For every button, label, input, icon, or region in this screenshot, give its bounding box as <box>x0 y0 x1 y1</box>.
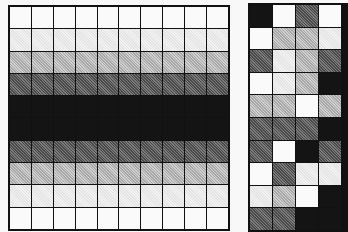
grid-cell <box>207 29 228 50</box>
grid-cell <box>185 74 206 95</box>
grid-cell <box>185 96 206 117</box>
grid-cell <box>54 141 75 162</box>
grid-cell <box>319 50 341 72</box>
grid-cell <box>250 95 272 117</box>
grid-cell <box>32 52 53 73</box>
grid-cell <box>250 5 272 27</box>
grid-cell <box>76 141 97 162</box>
grid-cell <box>207 74 228 95</box>
grid-cell <box>54 7 75 28</box>
grid-cell <box>250 28 272 50</box>
grid-cell <box>296 208 318 230</box>
grid-cell <box>296 186 318 208</box>
grid-cell <box>296 118 318 140</box>
grid-cell <box>207 7 228 28</box>
grid-cell <box>76 208 97 229</box>
grid-cell <box>76 74 97 95</box>
grid-cell <box>319 208 341 230</box>
grid-cell <box>319 73 341 95</box>
grid-cell <box>98 96 119 117</box>
grid-cell <box>207 185 228 206</box>
grid-cell <box>119 208 140 229</box>
grid-cell <box>98 52 119 73</box>
horizontal-gradient-band-grid <box>8 5 230 231</box>
grid-cell <box>273 186 295 208</box>
grid-cell <box>141 96 162 117</box>
grid-cell <box>76 163 97 184</box>
grid-cell <box>163 74 184 95</box>
grid-cell <box>141 7 162 28</box>
grid-cell <box>98 74 119 95</box>
grid-cell <box>119 7 140 28</box>
grid-cell <box>76 118 97 139</box>
grid-cell <box>250 73 272 95</box>
grid-cell <box>163 29 184 50</box>
grid-cell <box>163 118 184 139</box>
grid-cell <box>296 50 318 72</box>
grid-cell <box>141 208 162 229</box>
grid-cell <box>296 73 318 95</box>
grid-cell <box>319 163 341 185</box>
grid-cell <box>273 50 295 72</box>
grid-cell <box>119 118 140 139</box>
grid-cell <box>10 52 31 73</box>
grid-cell <box>185 141 206 162</box>
grid-cell <box>250 186 272 208</box>
grid-cell <box>32 118 53 139</box>
grid-cell <box>32 29 53 50</box>
grid-cell <box>185 52 206 73</box>
grid-cell <box>10 141 31 162</box>
grid-cell <box>98 29 119 50</box>
grid-cell <box>207 163 228 184</box>
grid-cell <box>141 118 162 139</box>
grid-cell <box>207 96 228 117</box>
grid-cell <box>119 96 140 117</box>
grid-cell <box>98 163 119 184</box>
grid-cell <box>163 7 184 28</box>
grid-cell <box>319 186 341 208</box>
grid-cell <box>10 118 31 139</box>
grid-cell <box>250 208 272 230</box>
grid-cell <box>32 96 53 117</box>
grid-cell <box>119 74 140 95</box>
grid-cell <box>32 141 53 162</box>
grid-cell <box>119 141 140 162</box>
grid-cell <box>10 163 31 184</box>
grid-cell <box>141 74 162 95</box>
grid-cell <box>296 141 318 163</box>
grid-cell <box>296 5 318 27</box>
grid-cell <box>273 5 295 27</box>
grid-cell <box>207 141 228 162</box>
grid-cell <box>185 118 206 139</box>
grid-cell <box>296 28 318 50</box>
grid-cell <box>163 185 184 206</box>
grid-cell <box>185 163 206 184</box>
grid-cell <box>10 74 31 95</box>
grid-cell <box>76 29 97 50</box>
grid-cell <box>119 29 140 50</box>
grid-cell <box>54 163 75 184</box>
grid-cell <box>185 208 206 229</box>
grid-cell <box>119 185 140 206</box>
grid-cell <box>32 185 53 206</box>
grid-cell <box>250 118 272 140</box>
grid-cell <box>273 95 295 117</box>
grid-cell <box>141 52 162 73</box>
grid-cell <box>207 118 228 139</box>
grid-cell <box>319 118 341 140</box>
grid-cell <box>32 208 53 229</box>
grid-cell <box>185 29 206 50</box>
grid-cell <box>54 208 75 229</box>
grid-cell <box>273 73 295 95</box>
grid-cell <box>273 141 295 163</box>
grid-cell <box>273 28 295 50</box>
grid-cell <box>319 28 341 50</box>
grid-cell <box>54 52 75 73</box>
grid-cell <box>98 208 119 229</box>
grid-cell <box>163 96 184 117</box>
grid-cell <box>141 185 162 206</box>
grid-cell <box>54 74 75 95</box>
grid-cell <box>98 118 119 139</box>
grid-cell <box>207 208 228 229</box>
grid-cell <box>119 163 140 184</box>
